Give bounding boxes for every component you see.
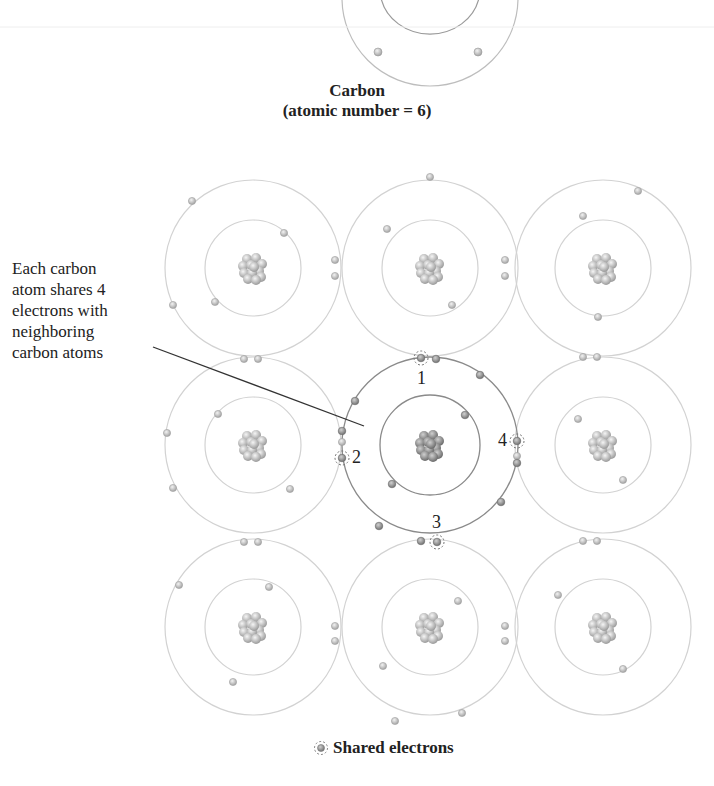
shared-label-2: 2 — [352, 447, 361, 468]
atom-subtitle: (atomic number = 6) — [0, 101, 714, 121]
shared-label-3: 3 — [432, 512, 441, 533]
electron-icon — [474, 48, 482, 56]
shared-electron-icon — [313, 740, 329, 756]
atom-name-title: Carbon — [0, 81, 714, 101]
callout-line: carbon atoms — [12, 342, 162, 363]
callout-text: Each carbon atom shares 4 electrons with… — [12, 258, 162, 363]
shared-label-4: 4 — [498, 430, 507, 451]
nuclei — [238, 253, 617, 644]
legend-label: Shared electrons — [333, 738, 454, 758]
top-carbon-atom — [342, 0, 518, 86]
callout-line: Each carbon — [12, 258, 162, 279]
callout-line: atom shares 4 — [12, 279, 162, 300]
electrons — [163, 173, 641, 724]
callout-line: neighboring — [12, 321, 162, 342]
shared-label-1: 1 — [417, 368, 426, 389]
callout-line: electrons with — [12, 300, 162, 321]
shared-electron-3 — [430, 535, 444, 549]
legend: Shared electrons — [313, 738, 454, 758]
electron-icon — [374, 48, 382, 56]
